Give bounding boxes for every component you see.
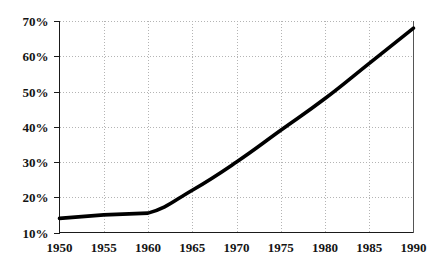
y-axis-tick-label: 40% bbox=[23, 120, 49, 135]
y-axis-tick-label: 50% bbox=[23, 85, 49, 100]
y-axis-tick-label: 70% bbox=[23, 14, 49, 29]
x-axis-tick-labels: 195019551960196519701975198019851990 bbox=[47, 240, 427, 255]
chart-container: 10%20%30%40%50%60%70% 195019551960196519… bbox=[0, 0, 441, 271]
chart-background bbox=[0, 0, 441, 271]
x-axis-tick-label: 1970 bbox=[224, 240, 250, 255]
x-axis-tick-label: 1950 bbox=[47, 240, 73, 255]
x-axis-tick-label: 1965 bbox=[179, 240, 206, 255]
x-axis-tick-label: 1980 bbox=[312, 240, 338, 255]
x-axis-tick-label: 1985 bbox=[356, 240, 383, 255]
y-axis-tick-label: 20% bbox=[23, 190, 49, 205]
x-axis-tick-label: 1960 bbox=[135, 240, 161, 255]
x-axis-tick-label: 1975 bbox=[268, 240, 295, 255]
x-axis-tick-label: 1990 bbox=[401, 240, 427, 255]
x-axis-tick-label: 1955 bbox=[91, 240, 118, 255]
y-axis-tick-label: 60% bbox=[23, 49, 49, 64]
line-chart: 10%20%30%40%50%60%70% 195019551960196519… bbox=[0, 0, 441, 271]
y-axis-tick-label: 30% bbox=[23, 155, 49, 170]
y-axis-tick-label: 10% bbox=[23, 226, 49, 241]
